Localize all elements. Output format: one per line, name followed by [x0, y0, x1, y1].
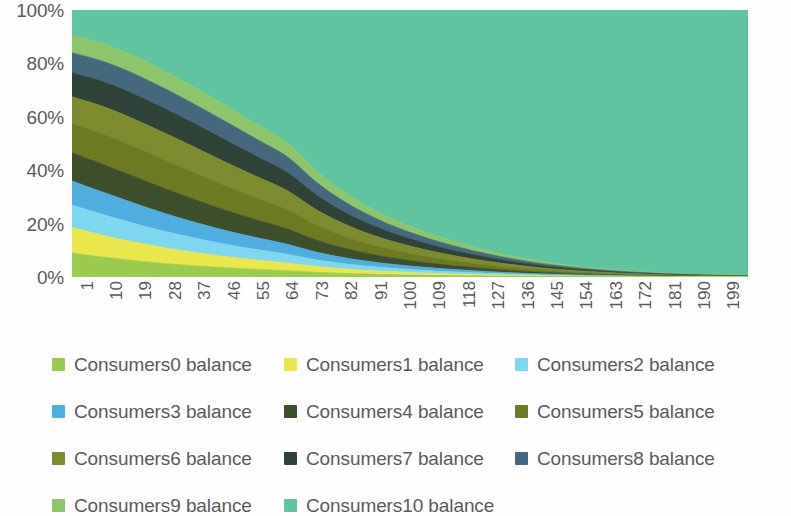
y-tick-label: 20% — [0, 215, 64, 234]
legend-item[interactable]: Consumers6 balance — [52, 446, 252, 470]
x-tick-label: 28 — [167, 281, 184, 300]
legend-swatch-icon — [52, 499, 65, 512]
x-tick-label: 118 — [461, 281, 478, 308]
legend-item[interactable]: Consumers9 balance — [52, 493, 252, 516]
x-tick-label: 19 — [137, 281, 154, 300]
x-tick-label: 190 — [696, 281, 713, 309]
x-tick-label: 181 — [667, 281, 684, 309]
y-tick-label: 80% — [0, 54, 64, 73]
legend-item-label: Consumers4 balance — [306, 400, 484, 423]
legend-item[interactable]: Consumers8 balance — [515, 446, 715, 470]
legend-item-label: Consumers5 balance — [537, 400, 715, 423]
x-tick-label: 109 — [431, 281, 448, 309]
x-tick-label: 100 — [402, 281, 419, 309]
x-tick-label: 10 — [108, 281, 125, 300]
legend-item[interactable]: Consumers0 balance — [52, 352, 252, 376]
x-axis: 1101928374655647382911001091181271361451… — [72, 281, 748, 341]
plot-svg — [72, 10, 748, 277]
legend-item[interactable]: Consumers3 balance — [52, 399, 252, 423]
x-tick-label: 91 — [373, 281, 390, 300]
y-tick-label: 100% — [0, 1, 64, 20]
legend-swatch-icon — [284, 452, 297, 465]
x-tick-label: 199 — [725, 281, 742, 309]
legend-item-label: Consumers8 balance — [537, 447, 715, 470]
x-tick-label: 127 — [490, 281, 507, 309]
legend-item[interactable]: Consumers1 balance — [284, 352, 484, 376]
legend-swatch-icon — [515, 452, 528, 465]
x-tick-label: 145 — [549, 281, 566, 309]
legend-item[interactable]: Consumers2 balance — [515, 352, 715, 376]
legend-item[interactable]: Consumers7 balance — [284, 446, 484, 470]
legend-item[interactable]: Consumers5 balance — [515, 399, 715, 423]
legend-swatch-icon — [284, 405, 297, 418]
x-tick-label: 46 — [226, 281, 243, 300]
legend-swatch-icon — [284, 499, 297, 512]
y-tick-label: 60% — [0, 108, 64, 127]
x-tick-label: 172 — [637, 281, 654, 309]
legend-item[interactable]: Consumers4 balance — [284, 399, 484, 423]
chart-legend: Consumers0 balanceConsumers1 balanceCons… — [52, 352, 772, 512]
plot-area — [72, 10, 748, 277]
x-tick-label: 64 — [284, 281, 301, 300]
legend-item-label: Consumers10 balance — [306, 494, 494, 516]
legend-item-label: Consumers2 balance — [537, 353, 715, 376]
x-tick-label: 136 — [520, 281, 537, 309]
legend-swatch-icon — [52, 452, 65, 465]
y-tick-label: 40% — [0, 161, 64, 180]
x-tick-label: 82 — [343, 281, 360, 300]
x-tick-label: 163 — [608, 281, 625, 309]
legend-swatch-icon — [515, 358, 528, 371]
x-tick-label: 1 — [79, 281, 96, 290]
y-axis: 100%80%60%40%20%0% — [0, 0, 64, 290]
legend-swatch-icon — [52, 358, 65, 371]
legend-item[interactable]: Consumers10 balance — [284, 493, 494, 516]
legend-swatch-icon — [284, 358, 297, 371]
x-tick-label: 37 — [196, 281, 213, 300]
x-tick-label: 154 — [578, 281, 595, 309]
legend-item-label: Consumers7 balance — [306, 447, 484, 470]
legend-item-label: Consumers1 balance — [306, 353, 484, 376]
stacked-area-chart: 100%80%60%40%20%0% 110192837465564738291… — [0, 0, 791, 516]
x-tick-label: 73 — [314, 281, 331, 300]
legend-swatch-icon — [515, 405, 528, 418]
legend-item-label: Consumers6 balance — [74, 447, 252, 470]
legend-item-label: Consumers3 balance — [74, 400, 252, 423]
y-tick-label: 0% — [0, 268, 64, 287]
legend-item-label: Consumers0 balance — [74, 353, 252, 376]
legend-swatch-icon — [52, 405, 65, 418]
legend-item-label: Consumers9 balance — [74, 494, 252, 516]
x-tick-label: 55 — [255, 281, 272, 300]
